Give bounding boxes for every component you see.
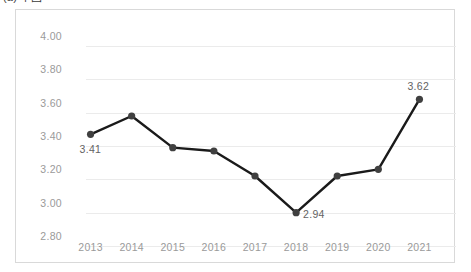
chart-figure: (a) 中国 4.003.803.603.403.203.002.80 2013… [0,0,471,272]
data-point-label: 3.62 [407,81,429,92]
series-marker [334,172,341,179]
series-marker [375,166,382,173]
series-marker [416,96,423,103]
series-markers [87,96,423,217]
series-marker [128,112,135,119]
series-marker [251,172,258,179]
series-marker [87,131,94,138]
series-marker [169,144,176,151]
series-marker [210,147,217,154]
data-point-label: 3.41 [80,144,102,155]
line-series-layer [0,0,471,272]
series-line [91,99,420,212]
data-point-label: 2.94 [303,209,325,220]
series-marker [293,209,300,216]
